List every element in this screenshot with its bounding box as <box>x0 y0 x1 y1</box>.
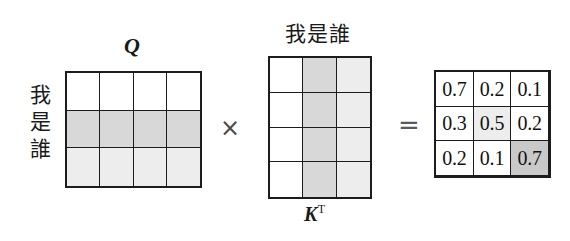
figure-canvas: Q 我 是 誰 × 我是誰 <box>0 0 570 241</box>
equals-operator: = <box>398 112 420 138</box>
kt-cell-r1c2 <box>303 58 336 93</box>
q-row-label-char-3: 誰 <box>30 136 51 163</box>
kt-cell-r4c1 <box>270 162 303 197</box>
kt-label-base: K <box>304 203 317 225</box>
q-cell-r1c3 <box>134 73 167 111</box>
kt-cell-r1c1 <box>270 58 303 93</box>
q-cell-r3c2 <box>100 148 133 186</box>
kt-cell-r3c3 <box>337 128 370 163</box>
q-cell-r2c3 <box>134 111 167 149</box>
q-cell-r3c3 <box>134 148 167 186</box>
result-cell-r2c3: 0.2 <box>511 107 549 142</box>
kt-matrix-column-label: 我是誰 <box>285 17 351 47</box>
q-cell-r1c1 <box>67 73 100 111</box>
result-cell-r3c2: 0.1 <box>474 141 512 176</box>
kt-cell-r3c2 <box>303 128 336 163</box>
result-cell-r1c3: 0.1 <box>511 72 549 107</box>
multiply-operator: × <box>220 116 240 140</box>
kt-cell-r3c1 <box>270 128 303 163</box>
result-cell-r1c2: 0.2 <box>474 72 512 107</box>
kt-cell-r1c3 <box>337 58 370 93</box>
q-matrix-label: Q <box>124 33 140 59</box>
q-row-label-char-1: 我 <box>30 82 51 109</box>
q-cell-r2c2 <box>100 111 133 149</box>
q-cell-r2c1 <box>67 111 100 149</box>
q-matrix <box>65 71 202 188</box>
q-cell-r3c1 <box>67 148 100 186</box>
q-cell-r2c4 <box>167 111 200 149</box>
kt-matrix-label: KT <box>304 202 325 226</box>
result-cell-r2c2: 0.5 <box>474 107 512 142</box>
result-cell-r3c3: 0.7 <box>511 141 549 176</box>
q-row-label-char-2: 是 <box>30 109 51 136</box>
q-cell-r1c2 <box>100 73 133 111</box>
kt-cell-r4c3 <box>337 162 370 197</box>
kt-matrix <box>268 56 372 199</box>
kt-label-superscript: T <box>318 202 325 216</box>
kt-cell-r2c3 <box>337 93 370 128</box>
result-cell-r2c1: 0.3 <box>436 107 474 142</box>
result-cell-r1c1: 0.7 <box>436 72 474 107</box>
q-cell-r1c4 <box>167 73 200 111</box>
q-matrix-row-label: 我 是 誰 <box>25 82 55 163</box>
result-cell-r3c1: 0.2 <box>436 141 474 176</box>
kt-cell-r2c1 <box>270 93 303 128</box>
result-matrix: 0.7 0.2 0.1 0.3 0.5 0.2 0.2 0.1 0.7 <box>434 70 551 178</box>
q-cell-r3c4 <box>167 148 200 186</box>
kt-cell-r2c2 <box>303 93 336 128</box>
kt-cell-r4c2 <box>303 162 336 197</box>
